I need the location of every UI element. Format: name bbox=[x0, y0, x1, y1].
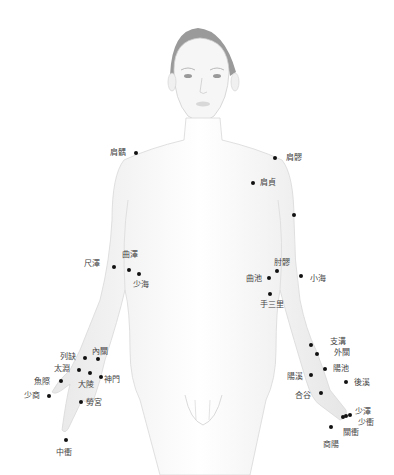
point-xiaohai bbox=[299, 274, 303, 278]
point-laogong bbox=[79, 400, 83, 404]
point-houxi bbox=[344, 380, 348, 384]
label-jianyu-left: 肩髃 bbox=[110, 148, 126, 157]
label-laogong: 勞宮 bbox=[86, 398, 102, 407]
point-zhouliao bbox=[275, 269, 279, 273]
point-shaoze bbox=[348, 413, 352, 417]
point-neiguan bbox=[96, 357, 100, 361]
label-shousanli: 手三里 bbox=[260, 300, 284, 309]
point-hegu bbox=[319, 391, 323, 395]
point-zhigou bbox=[309, 343, 313, 347]
point-waiguan bbox=[315, 352, 319, 356]
point-upper-arm bbox=[292, 213, 296, 217]
point-yangchi bbox=[323, 367, 327, 371]
point-taiyuan bbox=[77, 368, 81, 372]
label-guanchong: 關衝 bbox=[343, 428, 359, 437]
point-yangxi bbox=[309, 373, 313, 377]
label-lieque: 列缺 bbox=[60, 352, 76, 361]
point-chize bbox=[112, 265, 116, 269]
label-jianliao: 肩髎 bbox=[286, 153, 302, 162]
point-shousanli bbox=[268, 292, 272, 296]
label-zhouliao: 肘髎 bbox=[274, 258, 290, 267]
torso bbox=[52, 118, 346, 475]
label-zhigou: 支溝 bbox=[330, 337, 346, 346]
label-houxi: 後溪 bbox=[354, 378, 370, 387]
point-shangyang bbox=[329, 425, 333, 429]
body-diagram: 肩髃 肩髎 肩貞 尺澤 曲澤 少海 肘髎 曲池 小海 手三里 列缺 內關 太淵 … bbox=[0, 0, 394, 475]
body-outline bbox=[0, 0, 394, 475]
label-hegu: 合谷 bbox=[295, 391, 311, 400]
label-jianzhen: 肩貞 bbox=[260, 178, 276, 187]
label-quchi: 曲池 bbox=[246, 274, 262, 283]
label-yangxi: 陽溪 bbox=[287, 372, 303, 381]
label-yuji: 魚際 bbox=[34, 377, 50, 386]
label-neiguan: 內關 bbox=[92, 347, 108, 356]
point-daling bbox=[88, 371, 92, 375]
point-quze bbox=[127, 268, 131, 272]
point-lieque bbox=[83, 356, 87, 360]
label-shaohai: 少海 bbox=[133, 280, 149, 289]
point-shaoshang bbox=[47, 394, 51, 398]
label-shangyang: 商陽 bbox=[323, 440, 339, 449]
point-jianzhen bbox=[251, 181, 255, 185]
label-shaoshang: 少商 bbox=[24, 391, 40, 400]
label-quze: 曲澤 bbox=[122, 250, 138, 259]
label-shaoze: 少澤 bbox=[355, 407, 371, 416]
point-yuji bbox=[59, 379, 63, 383]
label-chize: 尺澤 bbox=[84, 259, 100, 268]
label-taiyuan: 太淵 bbox=[54, 364, 70, 373]
label-daling: 大陵 bbox=[78, 380, 94, 389]
label-xiaohai: 小海 bbox=[310, 274, 326, 283]
point-zhongchong bbox=[64, 438, 68, 442]
label-shenmen: 神門 bbox=[104, 375, 120, 384]
point-guanchong bbox=[341, 415, 345, 419]
point-quchi bbox=[267, 276, 271, 280]
point-jianyu-left bbox=[134, 151, 138, 155]
label-yangchi: 陽池 bbox=[333, 364, 349, 373]
label-waiguan: 外關 bbox=[334, 348, 350, 357]
label-shaochong: 少衝 bbox=[358, 418, 374, 427]
label-zhongchong: 中衝 bbox=[56, 448, 72, 457]
point-jianliao bbox=[273, 156, 277, 160]
point-shenmen bbox=[99, 375, 103, 379]
point-shaohai bbox=[137, 272, 141, 276]
